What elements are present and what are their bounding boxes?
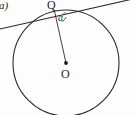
diagram-canvas [0, 0, 135, 115]
angle-label: a° [58, 12, 66, 23]
tangent-point-label: Q [47, 0, 56, 11]
tangent-line [0, 0, 135, 29]
part-label: a) [0, 0, 8, 11]
geometry-diagram-figure: a) Q a° O [0, 0, 135, 115]
center-point-label: O [61, 68, 70, 80]
center-point-dot [64, 61, 68, 65]
degree-symbol: ° [63, 11, 66, 19]
